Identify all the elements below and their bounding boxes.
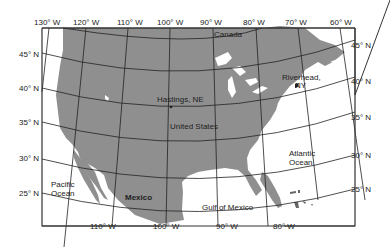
lat-label-right-30n: 30° N xyxy=(351,151,371,160)
lat-label-left-40n: 40° N xyxy=(19,84,39,93)
lon-label-60w: 60° W xyxy=(330,18,352,27)
lat-label-left-30n: 30° N xyxy=(19,154,39,163)
land-florida xyxy=(260,172,282,208)
lon-label-bottom-80w: 80° W xyxy=(273,222,295,231)
lon-label-110w: 110° W xyxy=(117,18,143,27)
label-canada: Canada xyxy=(214,30,242,39)
lon-label-70w: 70° W xyxy=(285,18,307,27)
lon-label-bottom-110w: 110° W xyxy=(90,222,116,231)
lat-label-right-25n: 25° N xyxy=(351,185,371,194)
label-atlantic: Atlantic xyxy=(289,149,315,158)
label-united-states: United States xyxy=(170,122,218,131)
lat-label-right-45n: 45° N xyxy=(351,41,371,50)
lon-label-130w: 130° W xyxy=(34,18,60,27)
lon-label-bottom-100w: 100° W xyxy=(153,222,179,231)
label-pacific: Pacific xyxy=(51,180,75,189)
label-mexico: Mexico xyxy=(125,193,152,202)
caribbean-islands xyxy=(290,190,313,208)
lat-label-left-35n: 35° N xyxy=(19,118,39,127)
label-gulf-of-mexico: Gulf of Mexico xyxy=(202,203,253,212)
lon-label-100w: 100° W xyxy=(157,18,183,27)
label-hastings: Hastings, NE xyxy=(157,95,204,104)
lat-label-right-35n: 35° N xyxy=(351,113,371,122)
label-atlantic-ocean: Ocean xyxy=(289,158,313,167)
lon-label-bottom-90w: 90° W xyxy=(216,222,238,231)
lat-label-left-45n: 45° N xyxy=(19,50,39,59)
lon-label-120w: 120° W xyxy=(73,18,99,27)
lon-label-80w: 80° W xyxy=(243,18,265,27)
label-pacific-ocean: Ocean xyxy=(51,189,75,198)
lon-label-90w: 90° W xyxy=(200,18,222,27)
lat-label-left-25n: 25° N xyxy=(19,189,39,198)
lat-label-right-40n: 40° N xyxy=(351,77,371,86)
label-riverhead-ny: NY xyxy=(295,81,306,90)
